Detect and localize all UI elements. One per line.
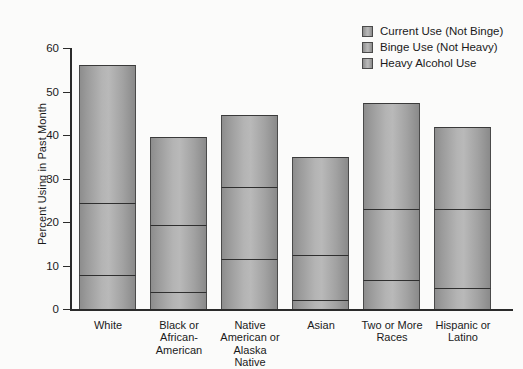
legend-swatch-icon [362, 26, 373, 37]
y-tick-label: 40 [46, 129, 59, 141]
bar-segment-binge-use[interactable] [292, 255, 349, 301]
plot-area: 0 10 20 30 40 50 60 [70, 48, 513, 311]
y-axis-line [70, 48, 72, 311]
y-tick-label: 60 [46, 42, 59, 54]
legend-item-current-use[interactable]: Current Use (Not Binge) [362, 24, 503, 38]
chart-legend: Current Use (Not Binge) Binge Use (Not H… [362, 24, 503, 72]
bar-segment-heavy-use[interactable] [363, 280, 420, 309]
y-tick-mark [63, 48, 70, 49]
y-tick-label: 30 [46, 173, 59, 185]
bar-native-american-or-alaska-native[interactable] [221, 115, 278, 309]
legend-swatch-icon [362, 42, 373, 53]
bar-segment-heavy-use[interactable] [221, 259, 278, 309]
y-tick-mark [63, 92, 70, 93]
bar-segment-binge-use[interactable] [363, 209, 420, 280]
x-axis-line [70, 309, 513, 311]
y-tick-mark [63, 222, 70, 223]
bar-segment-heavy-use[interactable] [434, 288, 491, 309]
bar-segment-current-use[interactable] [221, 115, 278, 186]
bar-hispanic-or-latino[interactable] [434, 127, 491, 309]
bar-segment-binge-use[interactable] [150, 225, 207, 292]
legend-item-heavy-use[interactable]: Heavy Alcohol Use [362, 56, 503, 70]
bar-segment-current-use[interactable] [434, 127, 491, 209]
y-tick-label: 50 [46, 86, 59, 98]
legend-label: Current Use (Not Binge) [380, 25, 503, 37]
y-tick-label: 0 [53, 303, 59, 315]
bar-segment-binge-use[interactable] [221, 187, 278, 259]
y-tick-label: 20 [46, 216, 59, 228]
y-tick-mark [63, 135, 70, 136]
bar-white[interactable] [79, 65, 136, 309]
legend-label: Heavy Alcohol Use [380, 57, 477, 69]
bar-segment-heavy-use[interactable] [150, 292, 207, 309]
bar-segment-current-use[interactable] [292, 157, 349, 255]
bar-segment-current-use[interactable] [79, 65, 136, 202]
bar-segment-current-use[interactable] [363, 103, 420, 209]
x-label-hispanic-or-latino: Hispanic orLatino [420, 319, 506, 344]
y-tick-label: 10 [46, 260, 59, 272]
y-tick-mark [63, 266, 70, 267]
bar-black-or-african-american[interactable] [150, 137, 207, 309]
legend-swatch-icon [362, 58, 373, 69]
bar-segment-current-use[interactable] [150, 137, 207, 226]
legend-label: Binge Use (Not Heavy) [380, 41, 498, 53]
bar-two-or-more-races[interactable] [363, 103, 420, 309]
y-tick-mark [63, 179, 70, 180]
bar-segment-binge-use[interactable] [434, 209, 491, 288]
bar-segment-binge-use[interactable] [79, 203, 136, 275]
bar-segment-heavy-use[interactable] [292, 300, 349, 309]
y-tick-mark [63, 309, 70, 310]
bar-segment-heavy-use[interactable] [79, 275, 136, 309]
legend-item-binge-use[interactable]: Binge Use (Not Heavy) [362, 40, 503, 54]
bar-asian[interactable] [292, 157, 349, 309]
